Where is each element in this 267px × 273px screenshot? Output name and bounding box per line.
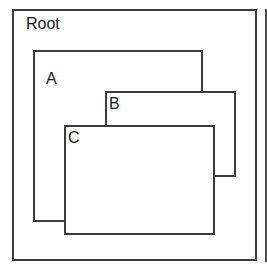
root-label: Root: [26, 16, 60, 32]
window-c: C: [64, 125, 215, 235]
window-c-label: C: [68, 130, 80, 146]
window-a-label: A: [46, 71, 57, 87]
right-edge-divider: [265, 9, 267, 262]
window-b-label: B: [109, 96, 120, 112]
